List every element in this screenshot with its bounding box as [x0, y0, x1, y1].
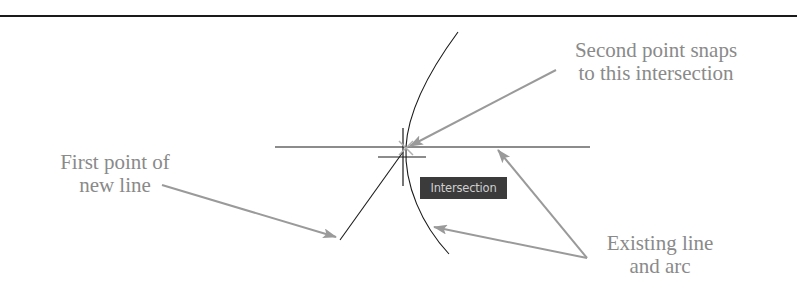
existing-label-line2: and arc	[585, 255, 735, 278]
snap-tooltip: Intersection	[420, 177, 507, 199]
first-point-label: First point of new line	[40, 151, 190, 197]
first-point-label-line2: new line	[40, 174, 190, 197]
new-line-rubberband	[340, 152, 403, 240]
second-point-arrow	[410, 70, 556, 146]
first-point-label-line1: First point of	[40, 151, 190, 174]
existing-line-arc-label: Existing line and arc	[585, 232, 735, 278]
second-point-label: Second point snaps to this intersection	[556, 39, 756, 85]
existing-label-line1: Existing line	[585, 232, 735, 255]
second-point-label-line1: Second point snaps	[556, 39, 756, 62]
second-point-label-line2: to this intersection	[556, 62, 756, 85]
